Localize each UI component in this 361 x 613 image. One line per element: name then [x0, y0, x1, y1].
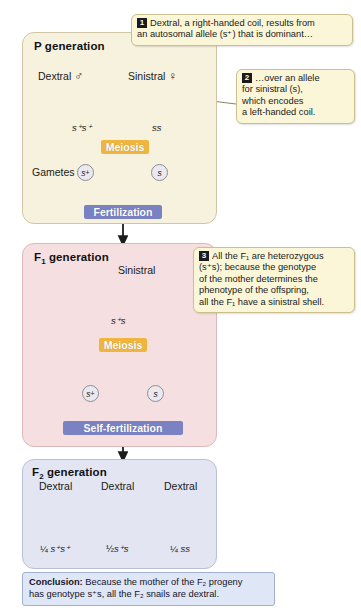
f1-generation-title: F1 generation — [34, 251, 109, 266]
callout-3: 3All the F₁ are heterozygous (s⁺s); beca… — [193, 247, 355, 313]
f2-ratio-1: ¼ — [40, 543, 48, 554]
f2-phenotype-label-1: Dextral — [39, 480, 72, 492]
f2-generation-title: F2 generation — [32, 466, 107, 481]
p-generation-title-text: P generation — [34, 40, 105, 52]
callout-2: 2…over an allele for sinistral (s), whic… — [236, 69, 355, 124]
callout-3-line-4: phenotype of the offspring, — [199, 285, 309, 295]
f2-phenotype-label-2: Dextral — [101, 480, 134, 492]
f2-genotype-3: ss — [181, 543, 191, 554]
conclusion-text-1: Because the mother of the F₂ progeny — [83, 577, 243, 587]
callout-1: 1Dextral, a right-handed coil, results f… — [131, 14, 353, 46]
p-generation-title: P generation — [34, 40, 105, 52]
gametes-label: Gametes — [32, 166, 75, 178]
f2-ratio-2: ½ — [106, 543, 114, 554]
callout-1-number: 1 — [137, 18, 147, 28]
f1-phenotype-label: Sinistral — [118, 264, 155, 276]
f2-genotype-2: s⁺s — [114, 543, 129, 554]
f2-ratio-genotype-2: ½s⁺s — [106, 543, 128, 554]
f1-gamete-splus: s+ — [82, 385, 99, 402]
callout-3-line-3: of the mother determines the — [199, 274, 318, 284]
male-symbol-icon: ♂ — [74, 69, 83, 83]
f2-phenotype-label-3: Dextral — [164, 480, 197, 492]
f2-ratio-genotype-3: ¼ ss — [170, 543, 190, 554]
p-male-genotype: s⁺s⁺ — [72, 122, 92, 133]
callout-2-line-2: for sinistral (s), — [242, 84, 303, 94]
p-meiosis-band: Meiosis — [101, 140, 149, 154]
f1-genotype: s⁺s — [111, 315, 126, 326]
p-female-genotype: ss — [152, 122, 162, 133]
conclusion-text-2: has genotype s⁺s, all the F₂ snails are … — [29, 589, 219, 599]
callout-1-line-1: Dextral, a right-handed coil, results fr… — [150, 18, 315, 28]
fertilization-band: Fertilization — [84, 205, 162, 219]
f2-ratio-genotype-1: ¼ s⁺s⁺ — [40, 543, 70, 554]
f1-gamete-s: s — [147, 385, 164, 402]
callout-2-line-3: which encodes — [242, 96, 304, 106]
conclusion-label: Conclusion: — [29, 577, 83, 587]
callout-1-line-2: an autosomal allele (s⁺) that is dominan… — [137, 29, 313, 39]
callout-3-line-1: All the F₁ are heterozygous — [212, 251, 324, 261]
callout-3-line-5: all the F₁ have a sinistral shell. — [199, 297, 324, 307]
self-fertilization-band: Self-fertilization — [63, 421, 183, 435]
panel-p-generation — [22, 32, 217, 224]
callout-2-line-4: a left-handed coil. — [242, 107, 315, 117]
callout-2-line-1: …over an allele — [255, 73, 320, 83]
callout-2-number: 2 — [242, 73, 252, 83]
callout-3-number: 3 — [199, 251, 209, 261]
figure-canvas: P generation Dextral ♂ Sinistral ♀ s⁺s⁺ … — [0, 0, 361, 613]
p-female-phenotype-label: Sinistral ♀ — [128, 69, 177, 83]
p-male-phenotype-label: Dextral ♂ — [38, 69, 83, 83]
f2-ratio-3: ¼ — [170, 543, 178, 554]
p-gamete-s: s — [151, 164, 168, 181]
callout-3-line-2: (s⁺s); because the genotype — [199, 262, 316, 272]
conclusion-box: Conclusion: Because the mother of the F₂… — [22, 572, 275, 606]
f2-genotype-1: s⁺s⁺ — [51, 543, 71, 554]
p-gamete-splus: s+ — [77, 164, 94, 181]
female-symbol-icon: ♀ — [168, 69, 177, 83]
f1-meiosis-band: Meiosis — [99, 338, 147, 352]
